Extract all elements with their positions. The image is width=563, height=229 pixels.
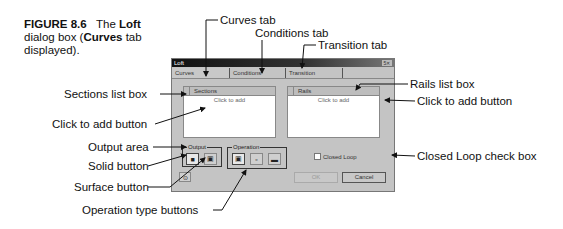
figure-number: FIGURE 8.6 [24, 18, 87, 30]
sections-list-box[interactable]: Sections Click to add [183, 86, 276, 138]
caption-bold-loft: Loft [119, 18, 141, 30]
sections-click-to-add-button[interactable]: Click to add [184, 97, 275, 103]
tab-curves[interactable]: Curves [172, 68, 230, 78]
output-area: Output ■ ▣ [182, 147, 222, 167]
help-button[interactable]: ⊙ [179, 172, 191, 182]
caption-text: The [96, 18, 119, 30]
callout-sections-list-box: Sections list box [64, 88, 147, 100]
ok-button[interactable]: OK [294, 172, 338, 183]
callout-curves-tab: Curves tab [220, 14, 276, 26]
surface-icon: ▣ [207, 155, 214, 163]
callout-conditions-tab: Conditions tab [255, 27, 329, 39]
solid-icon: ■ [190, 156, 194, 163]
callout-transition-tab: Transition tab [318, 39, 387, 51]
operation-3-icon: ▬ [271, 156, 278, 163]
tab-strip: Curves Conditions Transition [172, 67, 394, 79]
callout-closed-loop: Closed Loop check box [417, 150, 537, 162]
title-controls-icon[interactable]: 5✕ [382, 60, 392, 66]
caption-text: dialog box ( [24, 31, 83, 43]
tab-conditions[interactable]: Conditions [230, 68, 286, 78]
callout-rails-list-box: Rails list box [410, 78, 475, 90]
operation-2-icon: ▫ [255, 156, 257, 163]
caption-bold-curves: Curves [83, 31, 122, 43]
operation-button-3[interactable]: ▬ [268, 153, 281, 165]
title-bar: Loft 5✕ [172, 59, 394, 67]
rails-click-to-add-button[interactable]: Click to add [288, 97, 379, 103]
rails-header: Rails [288, 87, 379, 96]
operation-button-2[interactable]: ▫ [250, 153, 263, 165]
solid-button[interactable]: ■ [186, 153, 199, 165]
callout-solid-button: Solid button [88, 160, 149, 172]
tab-transition[interactable]: Transition [286, 68, 343, 78]
loft-dialog: Loft 5✕ Curves Conditions Transition Sec… [171, 58, 395, 192]
sections-header: Sections [184, 87, 275, 96]
operation-area: Operation ▣ ▫ ▬ [227, 147, 287, 169]
output-label: Output [187, 143, 207, 151]
callout-sections-click-to-add: Click to add button [52, 118, 147, 130]
callout-output-area: Output area [88, 141, 149, 153]
help-icon: ⊙ [183, 174, 188, 181]
closed-loop-label: Closed Loop [323, 154, 357, 160]
rails-list-box[interactable]: Rails Click to add [287, 86, 380, 138]
cancel-button[interactable]: Cancel [342, 172, 386, 183]
callout-surface-button: Surface button [74, 181, 149, 193]
figure-caption: FIGURE 8.6 The Loft dialog box (Curves t… [24, 18, 154, 57]
dialog-title: Loft [174, 60, 184, 66]
surface-button[interactable]: ▣ [204, 153, 217, 165]
closed-loop-checkbox[interactable]: Closed Loop [314, 153, 357, 160]
callout-rails-click-to-add: Click to add button [417, 95, 512, 107]
callout-operation-type-buttons: Operation type buttons [82, 204, 198, 216]
checkbox-box[interactable] [314, 153, 321, 160]
operation-button-1[interactable]: ▣ [232, 153, 245, 165]
operation-1-icon: ▣ [235, 155, 242, 163]
operation-label: Operation [232, 143, 260, 151]
